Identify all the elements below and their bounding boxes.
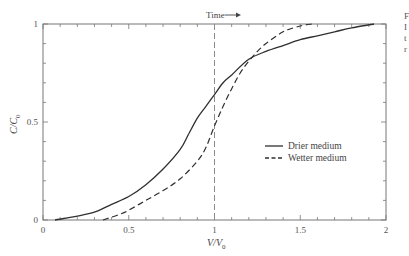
- y-tick-label: 0.5: [27, 117, 39, 127]
- y-axis-label: C/C0: [8, 114, 22, 134]
- legend-label-drier: Drier medium: [288, 141, 342, 151]
- edge-fragment: t: [404, 33, 407, 43]
- x-axis-label: V/V0: [207, 237, 226, 251]
- edge-fragment: I: [404, 22, 407, 32]
- legend-label-wetter: Wetter medium: [288, 153, 347, 163]
- y-tick-label: 1: [34, 19, 39, 29]
- cropped-caption-fragments: F I t r: [404, 11, 409, 54]
- x-tick-label: 0.5: [123, 225, 135, 235]
- x-tick-label: 0: [41, 225, 46, 235]
- y-tick-label: 0: [34, 215, 39, 225]
- edge-fragment: F: [404, 11, 409, 21]
- breakthrough-curve-chart: 0 0.5 1 1.5 2 0 0.5 1 V/V0 C/C0 Time Dri…: [0, 0, 409, 256]
- x-tick-label: 1: [212, 225, 217, 235]
- time-annotation: Time: [206, 10, 225, 20]
- x-tick-label: 1.5: [295, 225, 307, 235]
- wetter-medium-curve: [103, 24, 312, 220]
- legend: Drier medium Wetter medium: [265, 141, 347, 163]
- x-tick-label: 2: [384, 225, 389, 235]
- edge-fragment: r: [404, 44, 407, 54]
- time-arrow-icon: [225, 13, 241, 18]
